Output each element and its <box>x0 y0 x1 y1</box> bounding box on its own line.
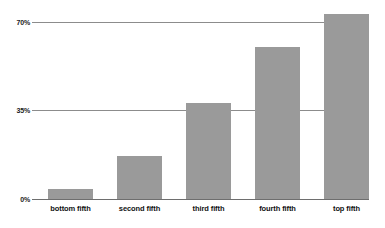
bar-second-fifth[interactable] <box>117 156 162 199</box>
bars-layer <box>0 0 385 228</box>
x-tick-label-fourth-fifth: fourth fifth <box>247 205 308 213</box>
bar-third-fifth[interactable] <box>186 103 231 199</box>
x-tick-label-bottom-fifth: bottom fifth <box>40 205 101 213</box>
x-tick-label-third-fifth: third fifth <box>178 205 239 213</box>
bar-top-fifth[interactable] <box>324 14 369 199</box>
bar-chart: 70% 35% 0% bottom fifth second fifth thi… <box>0 0 385 228</box>
x-tick-label-second-fifth: second fifth <box>109 205 170 213</box>
x-tick-label-top-fifth: top fifth <box>316 205 377 213</box>
bar-bottom-fifth[interactable] <box>48 189 93 199</box>
bar-fourth-fifth[interactable] <box>255 47 300 199</box>
